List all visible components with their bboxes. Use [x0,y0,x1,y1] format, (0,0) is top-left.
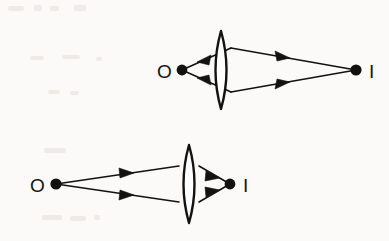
bottom-upper-left-arrowhead [119,168,134,178]
top-lower-left-arrowhead [197,75,211,85]
top-lower-right-ray [231,70,356,92]
bottom-upper-left-ray [56,166,179,184]
top-diagram: O I [157,31,374,109]
bottom-converging-lens [184,145,195,223]
top-object-point [177,65,188,76]
top-object-label: O [157,61,172,82]
top-image-label: I [369,61,374,82]
top-upper-left-arrowhead [197,55,211,65]
top-converging-lens [216,31,227,109]
lens-ray-diagram-figure: O I O I [0,0,389,241]
top-upper-right-arrowhead [275,51,290,61]
bottom-lower-left-arrowhead [119,190,134,200]
bottom-object-point [50,178,61,189]
bottom-lower-left-ray [56,184,179,202]
bottom-object-label: O [30,175,45,196]
top-lower-right-arrowhead [275,79,290,89]
ray-diagram-canvas: O I O I [0,0,389,241]
top-upper-right-ray [231,48,356,70]
bottom-diagram: O I [30,145,248,223]
bottom-image-label: I [243,175,248,196]
top-rays [182,48,356,92]
bottom-rays [56,166,230,202]
bottom-image-point [225,179,236,190]
top-image-point [350,64,361,75]
